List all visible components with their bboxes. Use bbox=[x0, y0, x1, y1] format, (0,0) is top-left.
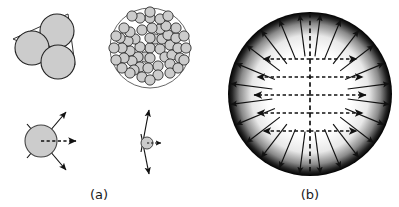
aggregate-particle bbox=[147, 23, 157, 33]
aggregate-particle bbox=[181, 43, 191, 53]
aggregate-particle bbox=[179, 31, 189, 41]
aggregate-particle bbox=[109, 43, 119, 53]
aggregate-particle bbox=[145, 33, 155, 43]
aggregate-particle bbox=[145, 53, 155, 63]
aggregate-particle bbox=[163, 11, 173, 21]
aggregate-particle bbox=[143, 63, 153, 73]
trimer-particle bbox=[41, 45, 75, 79]
aggregate-particle bbox=[137, 25, 147, 35]
aggregate-particle bbox=[127, 11, 137, 21]
aggregate-particle bbox=[145, 7, 155, 17]
aggregate-particle bbox=[171, 23, 181, 33]
aggregate-particle bbox=[145, 75, 155, 85]
panel-b-caption: (b) bbox=[301, 187, 319, 202]
aggregate-particle bbox=[119, 23, 129, 33]
aggregate-particle bbox=[179, 55, 189, 65]
figure-canvas: (a) (b) bbox=[0, 0, 399, 207]
aggregate-particle bbox=[145, 43, 155, 53]
aggregate-particle bbox=[111, 31, 121, 41]
panel-a-caption: (a) bbox=[90, 187, 108, 202]
aggregate-particle bbox=[111, 55, 121, 65]
